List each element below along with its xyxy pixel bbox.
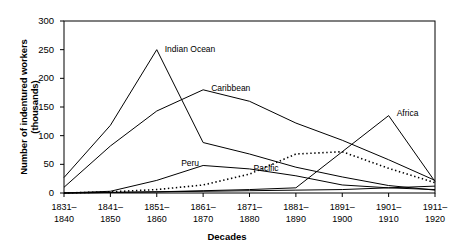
series-line-caribbean (64, 90, 435, 187)
series-label-peru: Peru (181, 158, 199, 168)
x-tick-label-line: 1920 (408, 214, 454, 226)
series-label-caribbean: Caribbean (211, 83, 250, 93)
chart-container: Number of indentured workers (thousands)… (0, 0, 454, 251)
y-tick-label: 250 (26, 44, 54, 55)
y-tick-label: 100 (26, 130, 54, 141)
y-tick-label: 200 (26, 72, 54, 83)
y-tick-label: 50 (26, 158, 54, 169)
y-tick-label: 150 (26, 101, 54, 112)
series-label-indian-ocean: Indian Ocean (165, 44, 216, 54)
series-label-pacific: Pacific (254, 163, 279, 173)
series-line-peru (64, 165, 435, 193)
plot-frame (64, 21, 435, 193)
series-label-africa: Africa (397, 108, 419, 118)
y-tick-label: 300 (26, 15, 54, 26)
x-tick-label-line: 1911– (408, 202, 454, 214)
y-tick-label: 0 (26, 187, 54, 198)
x-tick-label: 1911–1920 (408, 202, 454, 225)
